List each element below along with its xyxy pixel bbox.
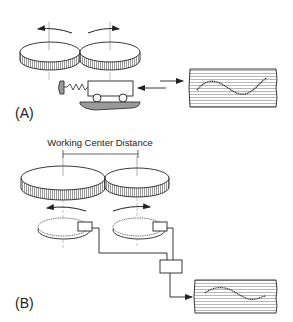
sensor-head [153,222,167,231]
sensor-head [78,222,92,231]
spring-loaded-carriage [59,81,141,110]
panel-b-label: (B) [15,295,34,311]
rotation-arrow-right-icon [113,207,150,212]
gear-pair-a [20,22,140,80]
rotation-arrows-a [38,29,119,34]
recorder-chart-a [189,69,277,107]
rotation-arrow-left-icon [38,29,72,34]
rotation-arrow-left-icon [47,207,86,211]
rotation-arrow-right-icon [88,29,119,34]
panel-b: Working Center Distance [15,137,277,313]
carriage-body [88,81,133,96]
working-center-distance-label: Working Center Distance [47,137,152,148]
wheel [93,94,101,102]
panel-a: (A) [15,22,277,121]
anchor-knob [59,81,65,94]
ground-base [80,102,140,110]
encoder-dial-right [113,218,167,239]
wheel [119,94,127,102]
signal-processor-box [160,260,182,273]
gear-inspection-diagram: (A) Working Center Distance [0,0,293,322]
panel-a-label: (A) [15,105,34,121]
output-wire [170,273,192,297]
dimension-line [63,150,138,158]
encoder-dial-left [38,218,92,239]
spring-icon [67,84,88,90]
gear-left-a [20,42,80,70]
recorder-chart-b [194,280,277,313]
signal-wire-right [167,228,173,260]
